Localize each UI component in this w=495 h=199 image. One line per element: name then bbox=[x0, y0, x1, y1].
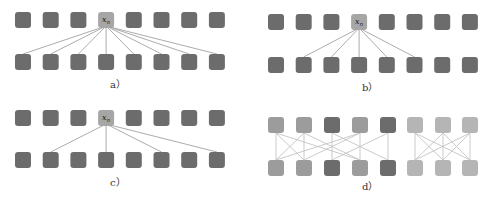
block-input-node bbox=[407, 117, 423, 133]
attention-pattern-diagram: xn xn xn bbox=[0, 0, 495, 199]
output-node bbox=[98, 54, 114, 70]
input-node bbox=[70, 12, 86, 28]
output-node bbox=[15, 152, 31, 168]
input-node bbox=[154, 110, 170, 126]
output-node bbox=[209, 54, 225, 70]
input-node bbox=[70, 110, 86, 126]
connection-edge bbox=[331, 28, 359, 57]
panel-a-full-connection: xn bbox=[15, 12, 225, 70]
input-node bbox=[181, 12, 197, 28]
output-node bbox=[15, 54, 31, 70]
group-output-node bbox=[352, 160, 368, 176]
group-output-node bbox=[268, 160, 284, 176]
output-node bbox=[434, 57, 450, 73]
panel-b-local-connection: xn bbox=[268, 14, 478, 73]
output-node bbox=[323, 57, 339, 73]
block-input-node bbox=[462, 117, 478, 133]
input-node bbox=[209, 110, 225, 126]
connection-edge bbox=[51, 124, 106, 152]
connection-edge bbox=[106, 124, 161, 152]
output-node bbox=[268, 57, 284, 73]
connection-edge bbox=[23, 26, 106, 54]
group-output-node bbox=[296, 160, 312, 176]
group-output-node bbox=[324, 160, 340, 176]
input-node bbox=[126, 110, 142, 126]
block-output-node bbox=[462, 160, 478, 176]
output-node bbox=[181, 152, 197, 168]
input-node bbox=[126, 12, 142, 28]
group-input-node bbox=[380, 117, 396, 133]
connection-edge bbox=[359, 28, 414, 57]
input-node bbox=[209, 12, 225, 28]
input-node bbox=[43, 110, 59, 126]
group-input-node bbox=[324, 117, 340, 133]
output-node bbox=[181, 54, 197, 70]
output-node bbox=[407, 57, 423, 73]
panel-b-label: b） bbox=[362, 79, 378, 94]
output-node bbox=[154, 54, 170, 70]
connection-edge bbox=[106, 26, 217, 54]
input-node bbox=[181, 110, 197, 126]
connection-edge bbox=[304, 28, 359, 57]
group-input-node bbox=[352, 117, 368, 133]
group-input-node bbox=[296, 117, 312, 133]
output-node bbox=[154, 152, 170, 168]
block-input-node bbox=[435, 117, 451, 133]
input-node bbox=[379, 14, 395, 30]
block-output-node bbox=[407, 160, 423, 176]
connection-edge bbox=[359, 28, 387, 57]
connection-edge bbox=[51, 26, 106, 54]
group-input-node bbox=[268, 117, 284, 133]
connection-edge bbox=[106, 26, 161, 54]
output-node bbox=[462, 57, 478, 73]
output-node bbox=[70, 152, 86, 168]
input-node bbox=[407, 14, 423, 30]
output-node bbox=[126, 54, 142, 70]
input-node bbox=[154, 12, 170, 28]
output-node bbox=[209, 152, 225, 168]
output-node bbox=[126, 152, 142, 168]
input-node bbox=[15, 110, 31, 126]
panel-a-label: a） bbox=[110, 76, 126, 91]
output-node bbox=[98, 152, 114, 168]
output-node bbox=[379, 57, 395, 73]
input-node bbox=[296, 14, 312, 30]
panel-d-grouped-connection bbox=[268, 117, 478, 176]
panel-d-label: d） bbox=[362, 178, 378, 193]
input-node bbox=[43, 12, 59, 28]
output-node bbox=[351, 57, 367, 73]
group-output-node bbox=[380, 160, 396, 176]
connection-edge bbox=[106, 26, 189, 54]
input-node bbox=[434, 14, 450, 30]
output-node bbox=[43, 152, 59, 168]
output-node bbox=[70, 54, 86, 70]
input-node bbox=[462, 14, 478, 30]
panel-c-dilated-connection: xn bbox=[15, 110, 225, 168]
connection-edge bbox=[106, 124, 217, 152]
panel-c-label: c） bbox=[110, 174, 126, 189]
input-node bbox=[15, 12, 31, 28]
output-node bbox=[296, 57, 312, 73]
input-node bbox=[323, 14, 339, 30]
output-node bbox=[43, 54, 59, 70]
block-output-node bbox=[435, 160, 451, 176]
input-node bbox=[268, 14, 284, 30]
